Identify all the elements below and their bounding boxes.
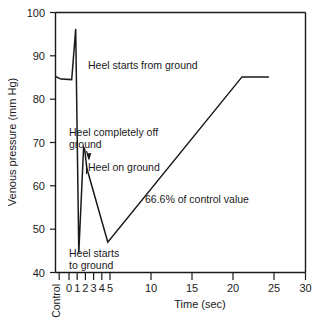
venous-pressure-figure: 100 90 80 70 60 50 40 Venous pressure (m… [0, 0, 326, 319]
y-axis-title: Venous pressure (mm Hg) [6, 78, 18, 206]
x-tick-label-control: Control [50, 284, 62, 318]
y-tick-label-80: 80 [33, 93, 45, 105]
x-tick-label-20: 20 [227, 282, 239, 294]
y-axis-ticks [50, 13, 56, 273]
annotation-heel-on-ground: Heel on ground [88, 161, 160, 173]
y-tick-label-40: 40 [33, 267, 45, 279]
annotation-heel-starts-from-ground: Heel starts from ground [88, 59, 198, 71]
y-tick-label-90: 90 [33, 50, 45, 62]
annotation-heel-starts-to-ground-line2: to ground [69, 259, 114, 271]
y-tick-label-70: 70 [33, 137, 45, 149]
x-tick-label-30: 30 [299, 282, 311, 294]
annotation-percent-of-control-value: 66.6% of control value [145, 193, 249, 205]
x-tick-label-15: 15 [186, 282, 198, 294]
annotation-heel-completely-off-ground-line1: Heel completely off [69, 126, 158, 138]
x-tick-label-4: 4 [99, 282, 105, 294]
y-axis-tick-labels: 100 90 80 70 60 50 40 [27, 7, 45, 279]
x-tick-label-25: 25 [268, 282, 280, 294]
chart-canvas: 100 90 80 70 60 50 40 Venous pressure (m… [0, 0, 326, 319]
x-tick-label-2: 2 [82, 282, 88, 294]
annotation-arrow-heel-completely-off-ground [87, 151, 92, 161]
y-tick-label-50: 50 [33, 223, 45, 235]
x-tick-label-5: 5 [107, 282, 113, 294]
annotation-heel-starts-to-ground-line1: Heel starts [69, 247, 119, 259]
x-axis-ticks [59, 273, 305, 281]
x-axis-tick-labels: 0 1 2 3 4 5 10 15 20 25 30 [66, 282, 312, 294]
x-tick-label-1: 1 [74, 282, 80, 294]
x-tick-label-0: 0 [66, 282, 72, 294]
x-tick-label-10: 10 [145, 282, 157, 294]
x-tick-label-3: 3 [91, 282, 97, 294]
annotation-heel-completely-off-ground-line2: ground [69, 138, 102, 150]
y-tick-label-100: 100 [27, 7, 45, 19]
y-tick-label-60: 60 [33, 180, 45, 192]
x-axis-title: Time (sec) [174, 298, 226, 310]
